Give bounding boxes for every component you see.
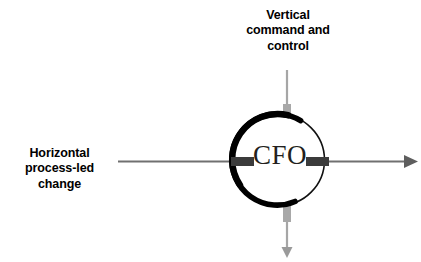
horizontal-axis-label-line-1: Horizontal bbox=[2, 146, 117, 161]
horizontal-axis-label-line-3: change bbox=[2, 177, 117, 192]
vertical-axis-label-line-2: command and bbox=[218, 23, 358, 38]
cfo-node-label: CFO bbox=[234, 142, 326, 169]
vertical-arrowhead bbox=[282, 247, 293, 258]
vertical-axis-label: Vertical command and control bbox=[218, 8, 358, 54]
vertical-axis-label-line-3: control bbox=[218, 39, 358, 54]
diagram-canvas: Vertical command and control Horizontal … bbox=[0, 0, 421, 262]
horizontal-axis-label-line-2: process-led bbox=[2, 161, 117, 176]
horizontal-axis-label: Horizontal process-led change bbox=[2, 146, 117, 192]
vertical-axis-label-line-1: Vertical bbox=[218, 8, 358, 23]
horizontal-arrowhead bbox=[404, 155, 418, 168]
